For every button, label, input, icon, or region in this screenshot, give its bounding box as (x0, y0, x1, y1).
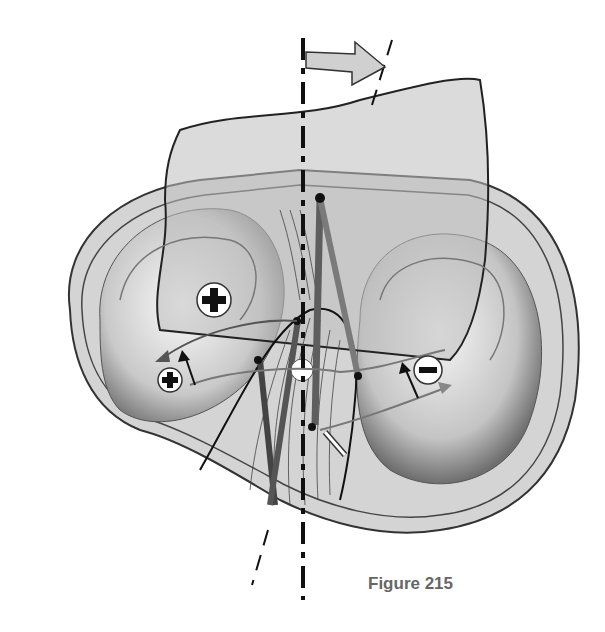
plus-sign-icon (197, 283, 231, 317)
knee-diagram (0, 0, 605, 632)
figure-caption: Figure 215 (368, 574, 453, 594)
rotation-arrow-icon (306, 42, 385, 85)
acl-bar (315, 198, 320, 425)
plus-sign-icon-small (158, 368, 182, 392)
minus-sign-icon (414, 356, 442, 384)
